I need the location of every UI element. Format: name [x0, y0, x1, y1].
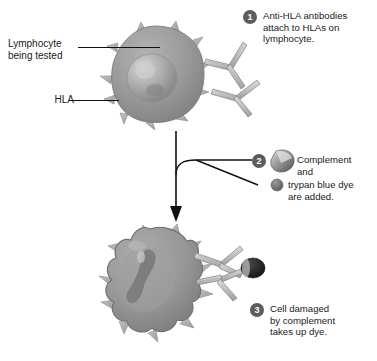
bottom-cell-nucleus-fragment — [127, 250, 155, 303]
bottom-cell-membrane — [106, 227, 203, 332]
trypan-blue-dye-dot-icon — [271, 179, 283, 191]
step-2-text-dye: trypan blue dye — [288, 179, 376, 191]
step-2-text-complement: Complement — [297, 154, 377, 166]
step-1-text: Anti-HLA antibodies attach to HLAs on ly… — [263, 10, 375, 45]
bottom-lymphocyte-group — [99, 224, 213, 342]
antibody-bottom-1 — [194, 246, 243, 278]
step-2-badge: 2 — [252, 154, 266, 168]
diagram-canvas: Lymphocyte being tested HLA 1 Anti-HLA a… — [0, 0, 377, 361]
complement-cone-icon — [271, 150, 294, 172]
arrow-head — [170, 206, 182, 222]
step-3-badge: 3 — [250, 303, 264, 317]
step2-connector-lines — [176, 160, 258, 185]
trypan-blue-stained-cap-icon — [241, 258, 265, 278]
lymphocyte-label: Lymphocyte being tested — [8, 38, 80, 61]
hla-label: HLA — [40, 94, 74, 106]
step-2-text-and: and — [297, 166, 377, 178]
step-3-text: Cell damaged by complement takes up dye. — [270, 303, 374, 338]
antibody-top-1 — [204, 42, 247, 89]
antibody-bottom-2 — [196, 268, 245, 301]
antibody-top-2 — [211, 80, 260, 117]
top-lymphocyte-group — [100, 21, 211, 130]
lymphocyte-leader-line — [78, 47, 160, 48]
top-cell-membrane — [112, 26, 204, 123]
hla-leader-line — [71, 100, 119, 101]
top-cell-nucleus — [127, 54, 177, 102]
step-2-text-added: are added. — [288, 191, 376, 203]
step-1-badge: 1 — [243, 10, 257, 24]
